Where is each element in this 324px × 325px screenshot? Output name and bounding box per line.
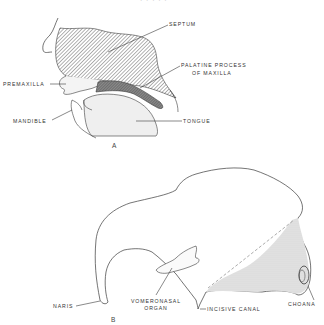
panel-b-drawing — [76, 168, 314, 309]
label-premaxilla: PREMAXILLA — [3, 81, 45, 87]
anatomical-figure: · · · · · — [0, 0, 324, 325]
label-septum: SEPTUM — [169, 21, 196, 27]
panel-a-drawing — [43, 18, 182, 138]
label-vomeronasal-line1: VOMERONASAL — [126, 298, 186, 304]
label-palatine-process-line2: OF MAXILLA — [192, 70, 232, 76]
label-naris: NARIS — [53, 303, 73, 309]
panel-b-label: B — [111, 316, 115, 323]
label-choana: CHOANA — [288, 301, 316, 307]
label-mandible: MANDIBLE — [13, 118, 47, 124]
label-incisive-canal: INCISIVE CANAL — [207, 306, 261, 312]
label-palatine-process-line1: PALATINE PROCESS — [181, 62, 247, 68]
diagram-drawing — [0, 0, 324, 325]
label-vomeronasal-line2: ORGAN — [126, 305, 186, 311]
label-tongue: TONGUE — [183, 118, 211, 124]
panel-a-label: A — [112, 142, 116, 149]
